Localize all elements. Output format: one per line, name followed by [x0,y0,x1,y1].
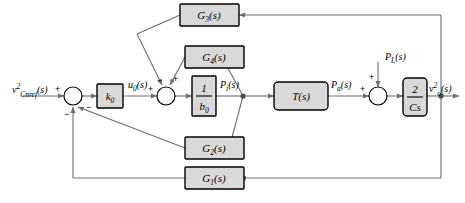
signal-label-output: v2o(s) [429,81,452,98]
block-diagram-canvas: k0 1 b0 T(s) 2 Cs G3(s) G4(s) G2 [0,0,465,203]
summing-junction-1 [64,87,82,105]
signal-label-pa: Pa(s) [330,79,352,93]
sign-sum2-left: + [148,84,153,94]
junction-node-pi [240,93,245,98]
signal-label-pi: Pi(s) [219,79,239,93]
sign-sum2-top-right: + [173,74,178,84]
sign-sum1-bottom-right: − [86,102,91,112]
block-ts-label: T(s) [292,90,310,103]
summing-junction-2 [157,87,175,105]
wire-g2-to-sum1 [78,107,185,148]
block-inv-b0-numerator: 1 [201,82,207,94]
sign-sum3-left: + [360,84,365,94]
signal-label-u0: u0(s) [128,79,148,93]
block-two-over-cs-numerator: 2 [412,83,418,95]
sign-sum3-top: + [369,72,374,82]
block-diagram-svg: k0 1 b0 T(s) 2 Cs G3(s) G4(s) G2 [0,0,465,203]
sign-sum1-left: + [55,84,60,94]
block-two-over-cs-denominator: Cs [409,101,421,113]
sign-sum1-bottom-left: − [64,109,69,119]
wire-g3-out-corner [137,15,180,34]
sign-sum2-top-left: − [157,75,162,85]
summing-junction-3 [369,87,387,105]
signal-label-pl: PL(s) [384,51,407,65]
